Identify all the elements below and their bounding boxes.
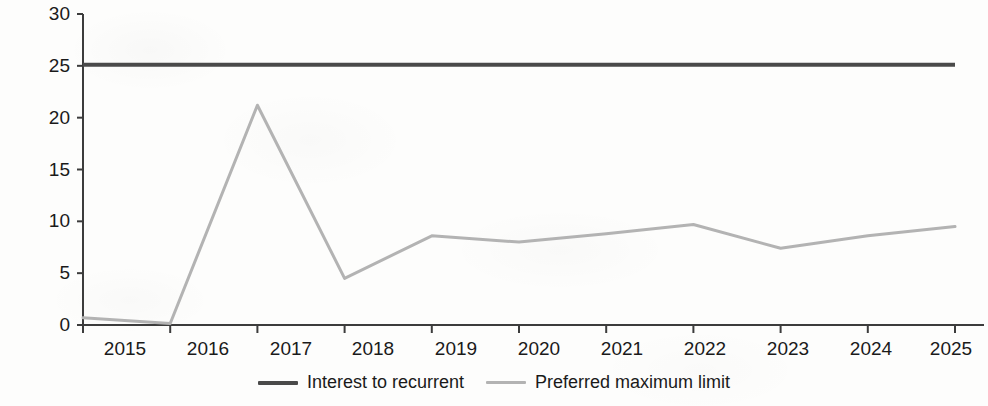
legend-swatch-icon-interest-to-recurrent <box>258 381 298 385</box>
legend-item-interest-to-recurrent: Interest to recurrent <box>258 372 464 393</box>
chart-legend: Interest to recurrent Preferred maximum … <box>0 372 988 393</box>
axis-lines <box>83 14 984 325</box>
legend-item-preferred-maximum-limit: Preferred maximum limit <box>486 372 730 393</box>
legend-label-interest-to-recurrent: Interest to recurrent <box>307 372 464 393</box>
liquidity-ratio-line-chart: Liquidity ratio, % 30 25 20 15 10 5 0 20… <box>0 0 988 406</box>
series-line-preferred-maximum-limit <box>83 105 955 323</box>
legend-label-preferred-maximum-limit: Preferred maximum limit <box>535 372 730 393</box>
legend-swatch-icon-preferred-maximum-limit <box>486 381 526 384</box>
plot-area <box>0 0 988 406</box>
x-axis-tick-marks <box>83 325 955 333</box>
